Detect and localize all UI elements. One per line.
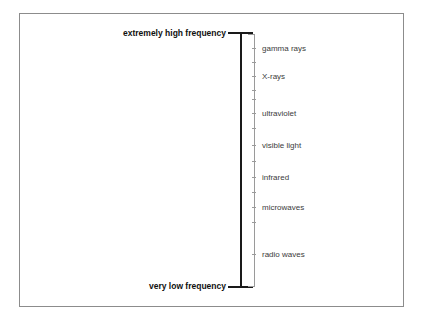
bracket-line (254, 34, 255, 286)
band-label-x-rays: X-rays (262, 72, 285, 81)
tick-mark (252, 90, 256, 91)
frequency-scale-bar (240, 33, 242, 287)
tick-mark (252, 128, 256, 129)
tick-mark (252, 62, 256, 63)
band-label-gamma-rays: gamma rays (262, 44, 306, 53)
tick-mark (252, 76, 256, 77)
band-label-radio-waves: radio waves (262, 250, 305, 259)
tick-mark (252, 254, 256, 255)
axis-label-high-frequency: extremely high frequency (112, 28, 226, 38)
tick-mark (252, 192, 256, 193)
tick-mark (252, 177, 256, 178)
tick-mark (252, 48, 256, 49)
band-label-microwaves: microwaves (262, 203, 304, 212)
axis-label-low-frequency: very low frequency (112, 281, 226, 291)
band-label-visible-light: visible light (262, 141, 301, 150)
band-label-infrared: infrared (262, 173, 289, 182)
tick-mark (252, 113, 256, 114)
tick-mark (252, 161, 256, 162)
tick-mark (252, 99, 256, 100)
band-label-ultraviolet: ultraviolet (262, 109, 296, 118)
diagram-frame (19, 13, 404, 307)
spectrum-diagram: gamma raysX-raysultravioletvisible light… (0, 0, 423, 323)
tick-mark (252, 145, 256, 146)
tick-mark (252, 222, 256, 223)
tick-mark (252, 207, 256, 208)
bracket-elbow-bottom (248, 286, 255, 287)
